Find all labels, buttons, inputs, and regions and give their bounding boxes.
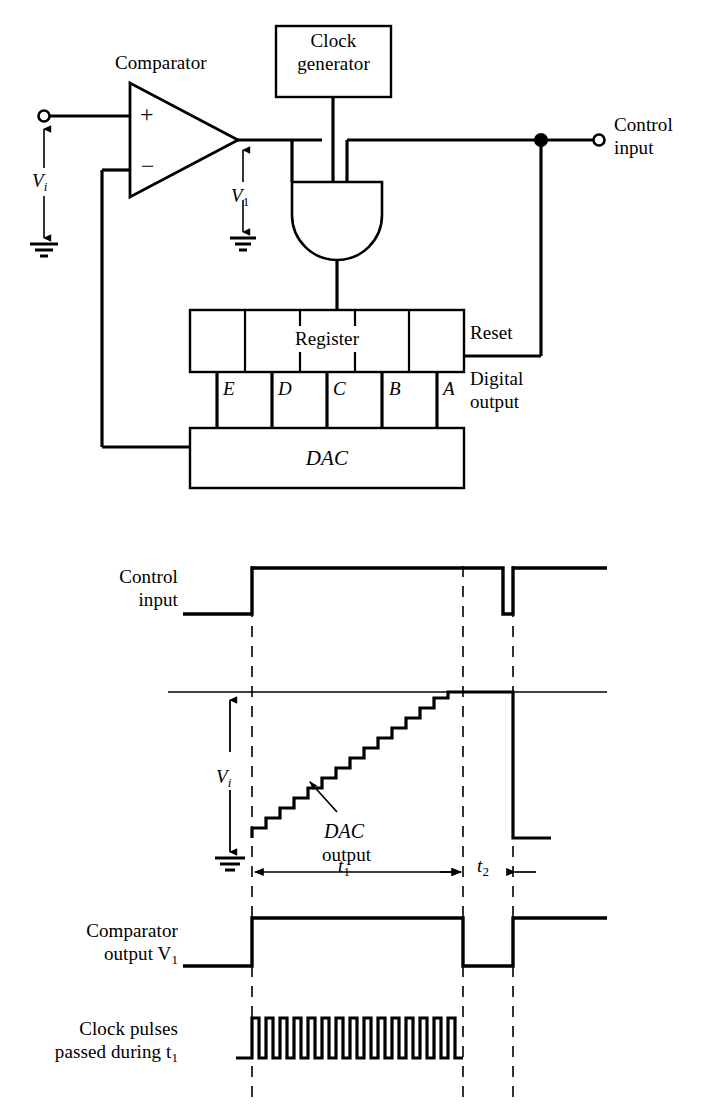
timing-clock-pulses-label-text: passed during t xyxy=(55,1041,172,1062)
timing-comparator-output-label-line1: Comparator xyxy=(28,920,178,942)
timing-comparator-output-label-line2: output V1 xyxy=(28,943,178,968)
timing-control-input-label-line2: input xyxy=(60,589,178,611)
digital-output-label-line2: output xyxy=(470,391,519,413)
register-label: Register xyxy=(240,328,414,350)
control-input-waveform xyxy=(183,568,607,614)
t2-label-subscript: 2 xyxy=(482,864,489,879)
clock-generator-label-line1: Clock xyxy=(276,30,391,52)
vi-input-terminal-icon xyxy=(39,111,50,122)
timing-clock-pulses-label-subscript: 1 xyxy=(171,1050,178,1065)
reset-label: Reset xyxy=(470,322,513,344)
bit-label-A: A xyxy=(443,378,455,400)
vi-label-subscript: i xyxy=(44,179,48,194)
vi-label: Vi xyxy=(32,170,47,195)
control-input-terminal-icon xyxy=(594,135,605,146)
timing-vi-label-subscript: i xyxy=(228,775,232,790)
comparator-output-waveform xyxy=(183,918,607,966)
vi-label-text: V xyxy=(32,170,44,191)
bit-label-B: B xyxy=(389,378,401,400)
timing-clock-pulses-label-line1: Clock pulses xyxy=(18,1018,178,1040)
vi-ground-icon xyxy=(30,244,58,256)
timing-control-input-label-line1: Control xyxy=(60,566,178,588)
v1-label: V1 xyxy=(231,185,249,210)
t1-label: t1 xyxy=(338,855,350,880)
timing-vi-label: Vi xyxy=(216,766,231,791)
bit-label-E: E xyxy=(223,378,235,400)
figure-root: Comparator Clock generator Control input… xyxy=(0,0,704,1116)
and-gate-icon xyxy=(292,182,382,260)
dac-staircase-waveform xyxy=(252,692,551,838)
clock-generator-label-line2: generator xyxy=(276,53,391,75)
control-input-label-line1: Control xyxy=(614,114,673,136)
control-input-label-line2: input xyxy=(614,137,654,159)
timing-comparator-output-label-subscript: 1 xyxy=(171,952,178,967)
t2-label: t2 xyxy=(477,855,489,880)
v1-ground-icon xyxy=(230,238,256,250)
v1-label-subscript: 1 xyxy=(243,194,250,209)
timing-vi-label-text: V xyxy=(216,766,228,787)
dac-output-annotation-line1: DAC xyxy=(324,820,364,843)
bit-label-D: D xyxy=(278,378,292,400)
comparator-minus-icon: − xyxy=(141,153,155,181)
v1-label-text: V xyxy=(231,185,243,206)
digital-output-label-line1: Digital xyxy=(470,368,523,390)
timing-comparator-output-label-text: output V xyxy=(104,943,172,964)
timing-ground-icon xyxy=(215,858,245,870)
comparator-label: Comparator xyxy=(115,52,207,74)
timing-clock-pulses-label-line2: passed during t1 xyxy=(18,1041,178,1066)
clock-pulse-train-waveform xyxy=(236,1018,463,1058)
comparator-plus-icon: + xyxy=(140,101,154,129)
dac-label: DAC xyxy=(190,446,464,470)
t1-label-subscript: 1 xyxy=(343,864,350,879)
bit-label-C: C xyxy=(333,378,346,400)
